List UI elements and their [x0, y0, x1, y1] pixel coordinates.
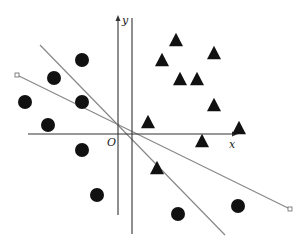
triangle-point [207, 98, 221, 112]
line-endpoint-marker [15, 73, 19, 77]
coordinate-axes [28, 15, 238, 234]
circle-point [171, 207, 185, 221]
separating-line-1 [17, 75, 290, 209]
triangle-points [141, 33, 246, 175]
triangle-point [150, 161, 164, 175]
circle-point [75, 143, 89, 157]
line-endpoint-marker [288, 207, 292, 211]
y-axis-arrow-icon [116, 15, 121, 21]
circle-point [18, 95, 32, 109]
triangle-point [169, 33, 183, 47]
x-axis-label: x [229, 138, 236, 151]
circle-point [90, 188, 104, 202]
classification-diagram: x y O [0, 0, 306, 248]
circle-point [47, 71, 61, 85]
triangle-point [141, 115, 155, 129]
triangle-point [195, 134, 209, 148]
triangle-point [207, 46, 221, 60]
circle-point [75, 95, 89, 109]
triangle-point [173, 72, 187, 86]
circle-point [231, 199, 245, 213]
triangle-point [232, 121, 246, 135]
triangle-point [190, 72, 204, 86]
origin-label: O [107, 136, 116, 149]
circle-point [41, 118, 55, 132]
circle-point [75, 53, 89, 67]
triangle-point [155, 53, 169, 67]
y-axis-label: y [121, 14, 129, 27]
